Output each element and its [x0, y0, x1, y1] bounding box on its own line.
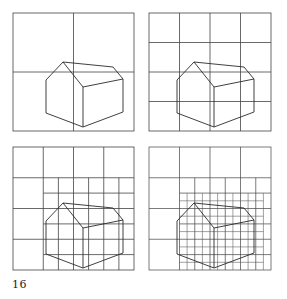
panel-2: [149, 13, 271, 131]
page-number: 16: [12, 278, 27, 291]
panel-3: [13, 147, 134, 270]
panel-4: [149, 147, 271, 270]
house-drawing: [46, 203, 123, 268]
house-drawing: [177, 203, 254, 268]
figure-grid-drawings: [0, 0, 287, 299]
panel-1: [13, 13, 134, 131]
